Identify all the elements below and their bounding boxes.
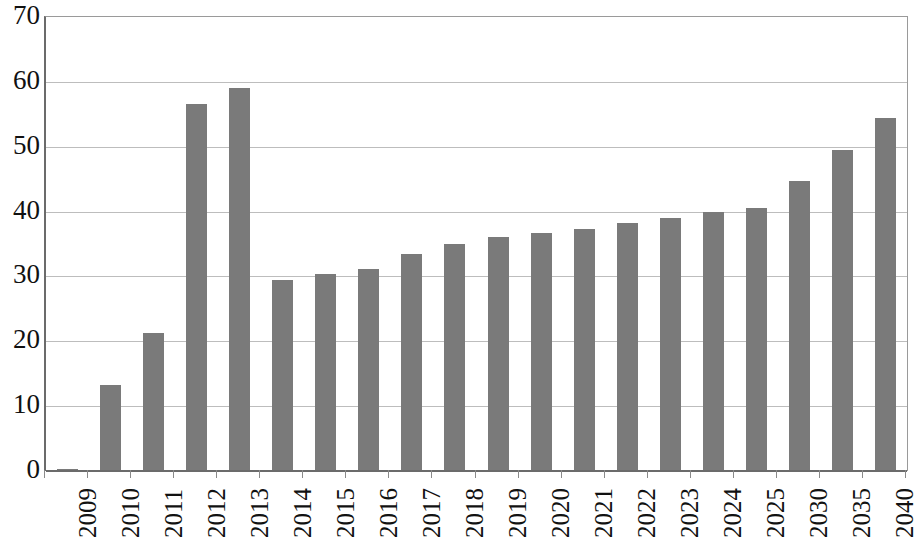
x-tick-label: 2010	[118, 478, 143, 538]
y-tick-label: 70	[2, 2, 40, 29]
x-tick-mark	[87, 470, 88, 478]
bar	[100, 385, 121, 471]
bar	[574, 229, 595, 471]
x-axis: 2009201020112012201320142015201620172018…	[44, 478, 905, 533]
y-tick-label: 40	[2, 197, 40, 224]
bar	[746, 208, 767, 471]
y-tick-label: 30	[2, 261, 40, 288]
x-tick-label: 2035	[849, 478, 874, 538]
x-tick-label: 2040	[892, 478, 917, 538]
x-tick-mark	[44, 470, 45, 478]
bar	[660, 218, 681, 471]
x-tick-label: 2009	[75, 478, 100, 538]
x-tick-mark	[690, 470, 691, 478]
bar	[531, 233, 552, 471]
x-tick-mark	[905, 470, 906, 478]
bar	[875, 118, 896, 471]
bar	[272, 280, 293, 471]
x-tick-mark	[819, 470, 820, 478]
x-tick-mark	[647, 470, 648, 478]
bar	[186, 104, 207, 471]
bar	[315, 274, 336, 471]
bar	[444, 244, 465, 471]
bar	[358, 269, 379, 471]
y-tick-label: 20	[2, 326, 40, 353]
bars-layer	[46, 17, 907, 471]
y-axis: 010203040506070	[0, 0, 40, 533]
x-tick-label: 2013	[247, 478, 272, 538]
x-tick-label: 2018	[462, 478, 487, 538]
bar	[401, 254, 422, 471]
x-tick-label: 2012	[204, 478, 229, 538]
bar	[229, 88, 250, 471]
x-tick-label: 2022	[634, 478, 659, 538]
x-tick-label: 2021	[591, 478, 616, 538]
bar	[789, 181, 810, 471]
x-tick-mark	[431, 470, 432, 478]
x-tick-mark	[345, 470, 346, 478]
x-tick-label: 2016	[376, 478, 401, 538]
x-tick-label: 2015	[333, 478, 358, 538]
x-tick-label: 2019	[505, 478, 530, 538]
x-tick-mark	[604, 470, 605, 478]
x-tick-mark	[216, 470, 217, 478]
y-tick-label: 60	[2, 67, 40, 94]
x-tick-label: 2017	[419, 478, 444, 538]
x-tick-mark	[561, 470, 562, 478]
x-tick-mark	[302, 470, 303, 478]
x-tick-mark	[173, 470, 174, 478]
plot-area	[44, 16, 908, 471]
x-tick-mark	[733, 470, 734, 478]
bar	[143, 333, 164, 471]
x-tick-label: 2023	[677, 478, 702, 538]
x-tick-label: 2024	[720, 478, 745, 538]
x-tick-mark	[518, 470, 519, 478]
x-tick-mark	[776, 470, 777, 478]
x-tick-label: 2011	[161, 478, 186, 538]
x-tick-mark	[862, 470, 863, 478]
x-tick-mark	[130, 470, 131, 478]
bar	[703, 212, 724, 471]
x-tick-label: 2014	[290, 478, 315, 538]
y-tick-label: 10	[2, 391, 40, 418]
bar	[617, 223, 638, 471]
bar	[488, 237, 509, 471]
y-tick-label: 50	[2, 132, 40, 159]
bar	[832, 150, 853, 471]
x-tick-label: 2025	[763, 478, 788, 538]
x-tick-mark	[475, 470, 476, 478]
y-tick-label: 0	[2, 456, 40, 483]
x-tick-mark	[259, 470, 260, 478]
x-tick-label: 2030	[806, 478, 831, 538]
x-tick-label: 2020	[548, 478, 573, 538]
x-tick-mark	[388, 470, 389, 478]
